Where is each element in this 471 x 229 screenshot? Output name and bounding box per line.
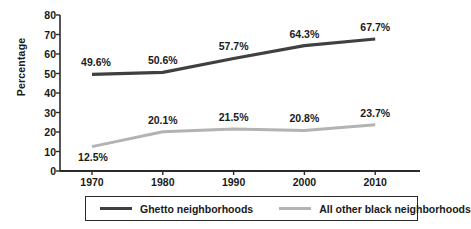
data-point-label: 67.7% (347, 21, 403, 33)
x-axis-tick-label: 1970 (62, 176, 122, 188)
data-point-label: 23.7% (347, 107, 403, 119)
data-point-label: 50.6% (135, 54, 191, 66)
data-point-label: 20.1% (135, 114, 191, 126)
data-point-label: 20.8% (276, 112, 332, 124)
chart-legend: Ghetto neighborhoods All other black nei… (85, 196, 418, 221)
legend-label: All other black neighborhoods (319, 203, 471, 215)
x-axis-tick-label: 2010 (345, 176, 405, 188)
series-line (92, 125, 375, 147)
data-point-label: 12.5% (65, 151, 121, 163)
legend-label: Ghetto neighborhoods (140, 203, 253, 215)
legend-color-swatch (279, 207, 311, 210)
legend-item-all-other-black-neighborhoods: All other black neighborhoods (279, 197, 471, 220)
data-point-label: 49.6% (68, 56, 124, 68)
data-point-label: 64.3% (276, 28, 332, 40)
x-axis-tick-label: 2000 (274, 176, 334, 188)
legend-color-swatch (100, 207, 132, 210)
data-point-label: 21.5% (206, 111, 262, 123)
x-axis-tick-label: 1980 (133, 176, 193, 188)
legend-item-ghetto-neighborhoods: Ghetto neighborhoods (100, 197, 253, 220)
x-axis-tick-label: 1990 (204, 176, 264, 188)
data-point-label: 57.7% (206, 40, 262, 52)
